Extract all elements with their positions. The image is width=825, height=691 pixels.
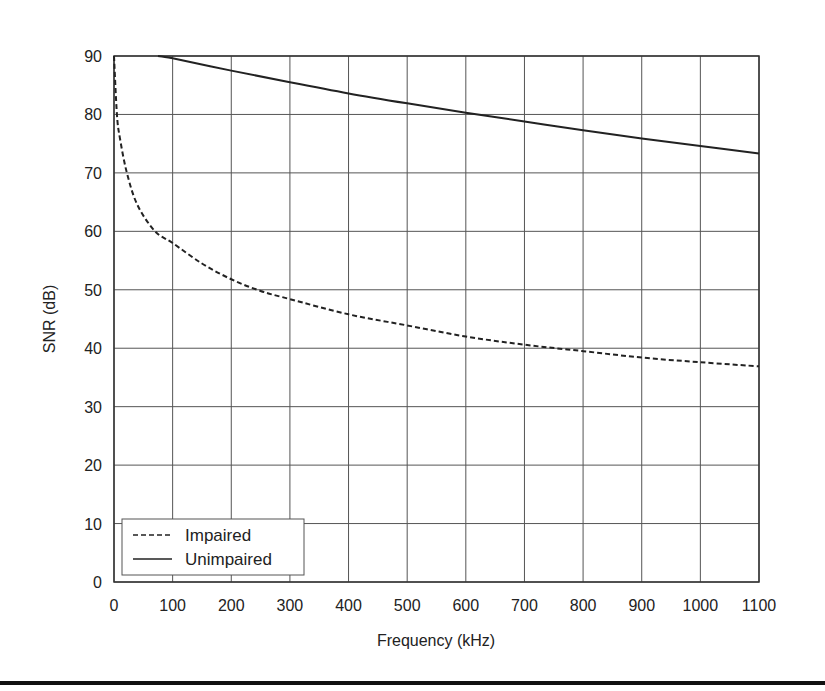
y-tick-label: 60 bbox=[84, 223, 102, 240]
plot-frame bbox=[114, 56, 759, 582]
series-unimpaired-line bbox=[158, 56, 759, 154]
y-tick-label: 40 bbox=[84, 340, 102, 357]
snr-chart: 0102030405060708090 01002003004005006007… bbox=[0, 0, 825, 691]
legend-impaired-label: Impaired bbox=[185, 526, 251, 545]
y-tick-label: 90 bbox=[84, 48, 102, 65]
x-tick-label: 1000 bbox=[683, 597, 719, 614]
x-tick-label: 900 bbox=[628, 597, 655, 614]
x-axis-ticks: 010020030040050060070080090010001100 bbox=[110, 597, 777, 614]
y-tick-label: 20 bbox=[84, 457, 102, 474]
y-tick-label: 10 bbox=[84, 516, 102, 533]
x-tick-label: 0 bbox=[110, 597, 119, 614]
x-tick-label: 600 bbox=[452, 597, 479, 614]
x-tick-label: 500 bbox=[394, 597, 421, 614]
y-axis-ticks: 0102030405060708090 bbox=[84, 48, 102, 591]
series-impaired-line bbox=[114, 56, 759, 366]
x-tick-label: 100 bbox=[159, 597, 186, 614]
x-tick-label: 300 bbox=[277, 597, 304, 614]
y-tick-label: 0 bbox=[93, 574, 102, 591]
y-axis-title: SNR (dB) bbox=[41, 285, 58, 353]
bottom-rule-divider bbox=[0, 681, 825, 685]
x-tick-label: 800 bbox=[570, 597, 597, 614]
legend: Impaired Unimpaired bbox=[122, 519, 304, 575]
series-group bbox=[114, 56, 759, 366]
y-tick-label: 30 bbox=[84, 399, 102, 416]
x-tick-label: 1100 bbox=[742, 597, 777, 614]
y-tick-label: 50 bbox=[84, 282, 102, 299]
x-tick-label: 700 bbox=[511, 597, 538, 614]
x-tick-label: 400 bbox=[335, 597, 362, 614]
y-tick-label: 80 bbox=[84, 106, 102, 123]
grid-lines bbox=[114, 56, 759, 582]
y-tick-label: 70 bbox=[84, 165, 102, 182]
legend-unimpaired-label: Unimpaired bbox=[185, 550, 272, 569]
x-tick-label: 200 bbox=[218, 597, 245, 614]
x-axis-title: Frequency (kHz) bbox=[377, 632, 495, 649]
